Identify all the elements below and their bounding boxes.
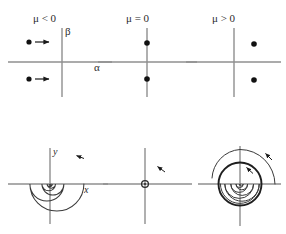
eigenplane-mu-positive bbox=[186, 28, 281, 97]
hopf-bifurcation-figure: μ < 0 μ = 0 μ > 0 β α y x bbox=[0, 0, 286, 234]
eigenvalue-marker bbox=[144, 76, 150, 82]
eigenplane-mu-zero bbox=[98, 28, 197, 97]
flow-direction-arrow-inner bbox=[247, 168, 254, 174]
flow-direction-arrow-outer bbox=[266, 154, 273, 161]
origin-point bbox=[144, 183, 146, 185]
eigenvalue-marker bbox=[144, 40, 150, 46]
phase-portrait-limit-cycle bbox=[198, 146, 281, 226]
y-axis-label: y bbox=[53, 147, 57, 157]
flow-direction-arrow bbox=[77, 156, 85, 159]
diagram-canvas bbox=[0, 0, 286, 234]
beta-axis-label: β bbox=[65, 26, 71, 37]
eigenvalue-marker bbox=[26, 39, 31, 44]
alpha-axis-label: α bbox=[94, 62, 100, 73]
panel-title-mu-negative: μ < 0 bbox=[33, 13, 56, 24]
outer-incoming-trajectory bbox=[212, 150, 275, 185]
flow-direction-arrow bbox=[158, 167, 166, 173]
phase-portrait-stable-spiral bbox=[8, 148, 108, 224]
eigenvalue-marker bbox=[251, 77, 257, 83]
eigenvalue-marker bbox=[26, 76, 31, 81]
phase-portrait-center bbox=[103, 148, 192, 224]
panel-title-mu-zero: μ = 0 bbox=[126, 13, 149, 24]
x-axis-label: x bbox=[84, 185, 88, 195]
panel-title-mu-positive: μ > 0 bbox=[212, 13, 235, 24]
inward-spiral-trajectory bbox=[30, 184, 84, 211]
eigenvalue-marker bbox=[251, 41, 257, 47]
